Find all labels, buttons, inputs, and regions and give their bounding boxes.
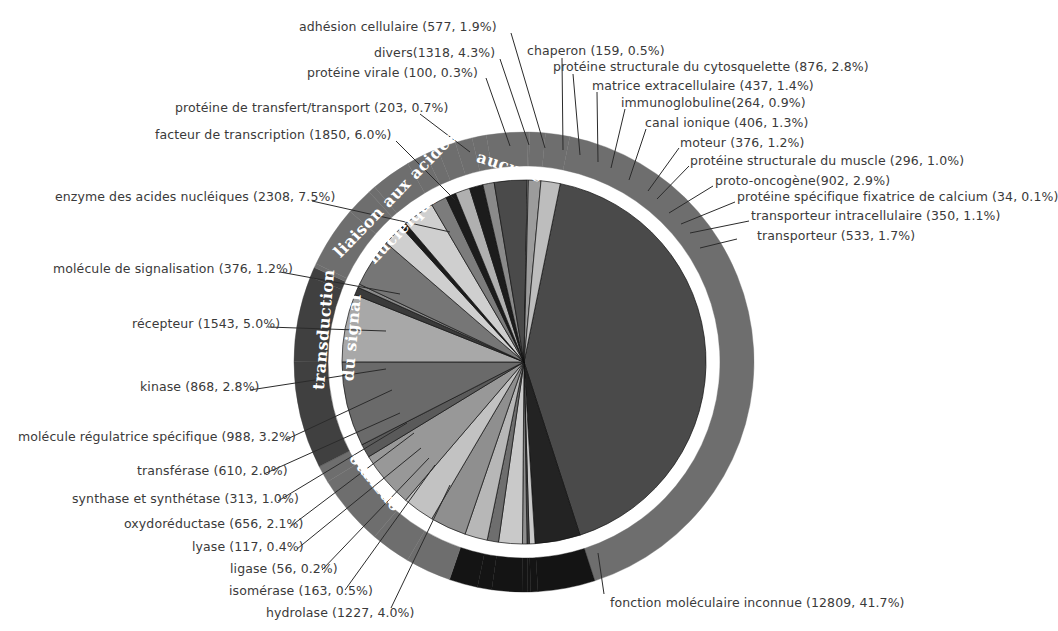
callout-divers: divers(1318, 4.3%) [374, 46, 495, 60]
callout-cytosquelette: protéine structurale du cytosquelette (8… [553, 60, 869, 74]
callout-lyase: lyase (117, 0.4%) [192, 540, 304, 554]
callout-molecule-signalisation: molécule de signalisation (376, 1.2%) [53, 262, 293, 276]
callout-ligase: ligase (56, 0.2%) [230, 562, 338, 576]
callout-molecule-regulatrice: molécule régulatrice spécifique (988, 3.… [18, 430, 296, 444]
callout-isomerase: isomérase (163, 0.5%) [229, 584, 373, 598]
callout-facteur-transcription: facteur de transcription (1850, 6.0%) [155, 128, 392, 142]
ring-segment [492, 556, 523, 592]
callout-recepteur: récepteur (1543, 5.0%) [132, 317, 280, 331]
callout-immunoglobuline: immunoglobuline(264, 0.9%) [621, 96, 806, 110]
callout-kinase: kinase (868, 2.8%) [140, 380, 260, 394]
callout-proto-oncogene: proto-oncogène(902, 2.9%) [715, 174, 890, 188]
callout-adhesion-cellulaire: adhésion cellulaire (577, 1.9%) [299, 20, 497, 34]
callout-enzyme-acides-nucl: enzyme des acides nucléiques (2308, 7.5%… [55, 190, 335, 204]
callout-muscle: protéine structurale du muscle (296, 1.0… [690, 154, 964, 168]
callout-fonction-inconnue: fonction moléculaire inconnue (12809, 41… [610, 596, 905, 610]
callout-transferase: transférase (610, 2.0%) [137, 464, 288, 478]
ring-segment [536, 548, 595, 591]
callout-proteine-virale: protéine virale (100, 0.3%) [307, 66, 478, 80]
callout-calcium: protéine spécifique fixatrice de calcium… [737, 190, 1058, 204]
callout-synthase: synthase et synthétase (313, 1.0%) [72, 492, 299, 506]
callout-chaperon: chaperon (159, 0.5%) [527, 44, 665, 58]
callout-canal-ionique: canal ionique (406, 1.3%) [645, 116, 808, 130]
callout-hydrolase: hydrolase (1227, 4.0%) [266, 606, 415, 620]
ring-segment [522, 558, 528, 592]
callout-proteine-transfert: protéine de transfert/transport (203, 0.… [175, 101, 449, 115]
callout-transporteur: transporteur (533, 1.7%) [757, 229, 915, 243]
callout-transporteur-intra: transporteur intracellulaire (350, 1.1%) [751, 209, 1000, 223]
callout-oxydoreductase: oxydoréductase (656, 2.1%) [124, 517, 304, 531]
callout-moteur: moteur (376, 1.2%) [680, 136, 805, 150]
callout-matrice-extracellulaire: matrice extracellulaire (437, 1.4%) [592, 79, 814, 93]
